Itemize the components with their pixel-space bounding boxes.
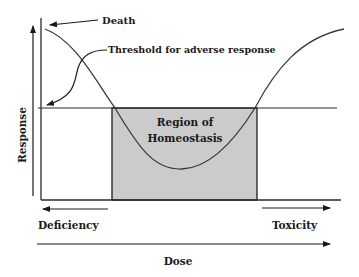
dose-response-diagram: Death Threshold for adverse response Reg… [0, 0, 359, 277]
death-label: Death [102, 15, 136, 26]
y-axis-label: Response [16, 107, 28, 163]
death-pointer-arrow [50, 20, 98, 25]
deficiency-label: Deficiency [38, 219, 100, 231]
x-axis-label: Dose [164, 255, 193, 267]
threshold-pointer-arrow [47, 50, 107, 105]
threshold-label: Threshold for adverse response [108, 44, 276, 55]
region-label-line1: Region of [157, 116, 215, 128]
region-label-line2: Homeostasis [147, 132, 222, 144]
toxicity-label: Toxicity [272, 219, 318, 231]
